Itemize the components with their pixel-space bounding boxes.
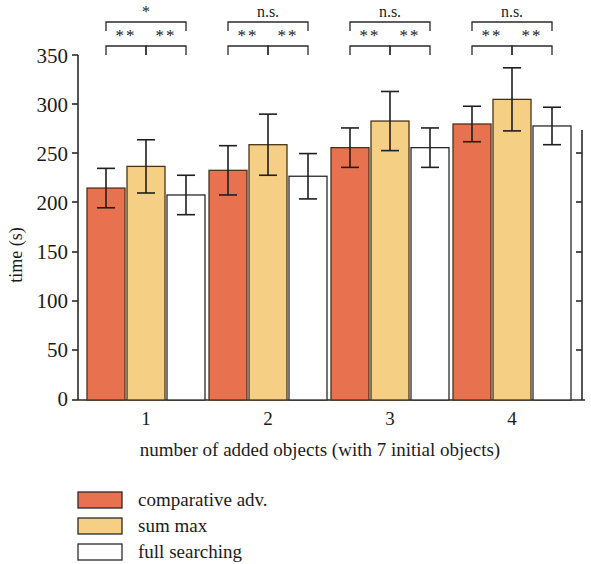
y-axis-ticks: [72, 55, 78, 400]
sig-label-inner-left-3: **: [360, 26, 381, 45]
bar-3-series-1: [331, 148, 369, 400]
x-tick-label-3: 3: [385, 408, 395, 429]
sig-label-outer-4: n.s.: [501, 3, 523, 20]
chart-svg: time (s) 350 300 250 200 150 100 50 0: [0, 0, 591, 564]
bar-2-series-3: [289, 176, 327, 400]
sig-label-inner-right-3: **: [400, 26, 421, 45]
legend-swatch-3: [78, 544, 122, 560]
significance-bracket-group-3: ****n.s.: [350, 3, 430, 55]
sig-label-inner-right-2: **: [278, 26, 299, 45]
bar-4-series-2: [493, 99, 531, 400]
y-tick-label-150: 150: [37, 240, 69, 264]
legend-swatch-2: [78, 518, 122, 534]
legend-item-2: sum max: [78, 515, 208, 536]
bar-1-series-3: [167, 195, 205, 400]
x-tick-label-1: 1: [141, 408, 151, 429]
right-axis-ticks: [576, 153, 582, 350]
sig-label-inner-right-1: **: [156, 26, 177, 45]
y-tick-label-200: 200: [37, 191, 69, 215]
significance-bracket-group-2: ****n.s.: [228, 3, 308, 55]
x-tick-label-2: 2: [263, 408, 273, 429]
y-axis-title: time (s): [6, 227, 27, 283]
sig-label-inner-left-1: **: [116, 26, 137, 45]
y-tick-label-350: 350: [37, 44, 69, 68]
significance-bracket-group-4: ****n.s.: [472, 3, 552, 55]
bar-1-series-1: [87, 188, 125, 400]
y-tick-label-250: 250: [37, 142, 69, 166]
bar-4-series-3: [533, 126, 571, 400]
y-tick-label-0: 0: [58, 387, 69, 411]
significance-bracket-group-1: *****: [106, 3, 186, 55]
sig-label-outer-2: n.s.: [257, 3, 279, 20]
legend-item-3: full searching: [78, 541, 242, 562]
sig-label-inner-left-2: **: [238, 26, 259, 45]
bar-chart-figure: time (s) 350 300 250 200 150 100 50 0: [0, 0, 591, 564]
y-tick-label-100: 100: [37, 289, 69, 313]
legend-item-1: comparative adv.: [78, 489, 268, 510]
x-axis-title: number of added objects (with 7 initial …: [140, 439, 500, 461]
sig-label-inner-left-4: **: [482, 26, 503, 45]
y-tick-label-50: 50: [47, 338, 68, 362]
significance-layer: *********n.s.****n.s.****n.s.: [106, 3, 552, 55]
sig-label-outer-1: *: [142, 3, 150, 20]
bar-3-series-3: [411, 148, 449, 400]
bars-layer: [87, 99, 571, 400]
chart-legend: comparative adv.sum maxfull searching: [78, 489, 268, 562]
y-tick-label-300: 300: [37, 93, 69, 117]
bar-4-series-1: [453, 124, 491, 400]
legend-label-1: comparative adv.: [138, 489, 268, 510]
x-tick-label-4: 4: [507, 408, 517, 429]
sig-label-outer-3: n.s.: [379, 3, 401, 20]
bar-3-series-2: [371, 121, 409, 400]
bar-2-series-1: [209, 170, 247, 400]
legend-label-2: sum max: [138, 515, 208, 536]
bar-2-series-2: [249, 145, 287, 400]
legend-label-3: full searching: [138, 541, 242, 562]
bar-1-series-2: [127, 166, 165, 400]
legend-swatch-1: [78, 492, 122, 508]
sig-label-inner-right-4: **: [522, 26, 543, 45]
